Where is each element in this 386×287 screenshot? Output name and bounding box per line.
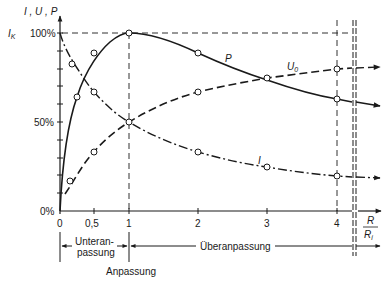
region-match: Anpassung bbox=[106, 266, 156, 277]
region-under-line1: Unteran- bbox=[75, 236, 114, 247]
series-label-p: P bbox=[225, 53, 232, 64]
x-axis bbox=[60, 208, 381, 214]
reference-lines bbox=[62, 20, 352, 211]
x-tick-2: 2 bbox=[195, 218, 201, 229]
curve-p bbox=[60, 33, 352, 211]
y-axis-title: I , U , P bbox=[24, 6, 58, 17]
x-tick-4: 4 bbox=[334, 218, 340, 229]
x-axis-label: R Ri bbox=[363, 215, 378, 241]
x-tick-05: 0,5 bbox=[85, 218, 99, 229]
curve-i bbox=[60, 33, 352, 177]
y-tick-0: 0% bbox=[40, 206, 55, 217]
region-under-line2: passung bbox=[77, 247, 115, 258]
region-over: Überanpassung bbox=[200, 241, 271, 252]
curve-u0 bbox=[65, 68, 352, 194]
x-tick-0: 0 bbox=[57, 218, 63, 229]
y-tick-50: 50% bbox=[34, 117, 54, 128]
y-tick-100: 100% bbox=[30, 28, 56, 39]
series-label-u0: U0 bbox=[287, 61, 298, 73]
x-tick-3: 3 bbox=[264, 218, 270, 229]
series-label-i: I bbox=[258, 155, 261, 166]
svg-text:R: R bbox=[367, 215, 374, 226]
svg-text:Ri: Ri bbox=[364, 229, 373, 241]
chart-canvas: I , U , P IK 100% 50% 0% 0 0,5 1 2 3 4 R… bbox=[0, 0, 386, 287]
x-tick-1: 1 bbox=[126, 218, 132, 229]
axis-break bbox=[353, 20, 356, 256]
ik-label: IK bbox=[8, 28, 16, 40]
